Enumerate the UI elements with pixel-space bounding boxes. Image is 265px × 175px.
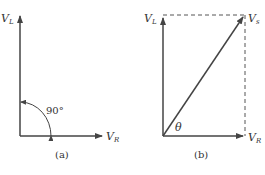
vl-label-b: VL	[144, 12, 157, 26]
vr-label-b: VR	[248, 131, 262, 145]
phasor-diagrams: VL VR 90° (a) VL Vs VR θ (b)	[0, 0, 265, 175]
vl-label-a: VL	[1, 12, 14, 26]
vs-vector-b	[163, 17, 243, 136]
theta-label-b: θ	[175, 121, 182, 134]
diagram-canvas: VL VR 90° (a) VL Vs VR θ (b)	[0, 0, 265, 175]
diagram-b: VL Vs VR θ (b)	[144, 12, 262, 160]
angle-label-a: 90°	[46, 105, 64, 116]
diagram-a: VL VR 90° (a)	[1, 12, 120, 160]
vs-label-b: Vs	[248, 12, 260, 26]
caption-a: (a)	[55, 149, 69, 160]
caption-b: (b)	[194, 149, 208, 160]
vr-label-a: VR	[106, 130, 120, 144]
